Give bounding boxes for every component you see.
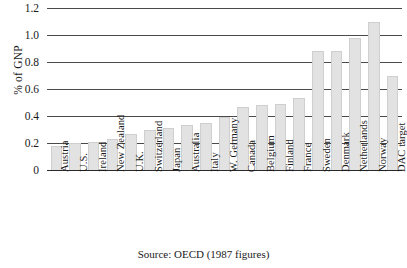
y-axis-tick-label: 0.6 (9, 84, 39, 96)
x-axis-tick-label: Switzerland (154, 121, 165, 172)
y-axis-tick-label: 0 (9, 165, 39, 177)
x-axis-tick-label: Japan (172, 148, 183, 172)
x-axis-tick-label: Ireland (98, 142, 109, 172)
bar-slot (200, 8, 212, 170)
x-axis-tick-label: Norway (378, 138, 389, 172)
x-axis-tick-label: Denmark (341, 132, 352, 172)
x-axis-tick-label: New Zealand (116, 115, 127, 172)
y-axis-tick-label: 1.2 (9, 3, 39, 15)
bar-chart-figure: % of GNP 1.21.00.80.60.40.20 AustriaU.S.… (0, 0, 407, 268)
x-axis-tick-label: Austria (60, 140, 71, 172)
y-axis-tick-label: 1.0 (9, 30, 39, 42)
bar-slot (69, 8, 81, 170)
x-axis-tick-label: W. Germany (229, 118, 240, 172)
bar-slot (125, 8, 137, 170)
y-axis-tick-label: 0.8 (9, 57, 39, 69)
x-axis-tick-label: Canada (247, 140, 258, 172)
x-axis-tick-label: U.K. (135, 151, 146, 172)
x-axis-tick-label: U.S. (79, 153, 90, 172)
x-axis-tick-label: Italy (210, 152, 221, 172)
x-axis-tick-label: Sweden (322, 138, 333, 172)
x-axis-tick-label: Netherlands (359, 120, 370, 172)
y-axis-tick-label: 0.2 (9, 138, 39, 150)
source-caption: Source: OECD (1987 figures) (0, 248, 407, 260)
x-axis-tick-label: Australia (191, 133, 202, 172)
x-axis-tick-label: Belgium (266, 135, 277, 172)
x-axis-tick-label: France (303, 143, 314, 172)
x-axis-tick-label: Finland (285, 139, 296, 172)
x-axis-tick-label: DAC target (397, 122, 407, 172)
x-axis-tick-label-group: AustriaU.S.IrelandNew ZealandU.K.Switzer… (47, 172, 402, 242)
y-axis-tick-label: 0.4 (9, 111, 39, 123)
